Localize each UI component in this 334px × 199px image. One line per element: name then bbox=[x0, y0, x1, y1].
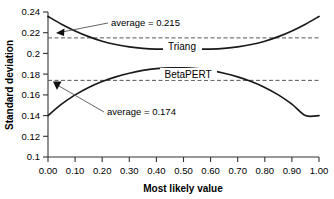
y-tick-label: 0.14 bbox=[22, 110, 41, 121]
chart-plot-area: 0.1 0.12 0.14 0.16 0.18 0.2 0.22 0.24 0.… bbox=[0, 0, 334, 199]
chart-figure: 0.1 0.12 0.14 0.16 0.18 0.2 0.22 0.24 0.… bbox=[0, 0, 334, 199]
y-tick-label: 0.24 bbox=[22, 6, 41, 17]
x-tick-label: 0.30 bbox=[120, 165, 139, 176]
betapert-series-label-group: BetaPERT bbox=[160, 68, 217, 80]
x-tick-label: 0.40 bbox=[147, 165, 166, 176]
x-tick-label: 0.80 bbox=[256, 165, 275, 176]
x-axis-tick-labels: 0.00 0.10 0.20 0.30 0.40 0.50 0.60 0.70 … bbox=[39, 165, 329, 176]
y-axis-title: Standard deviation bbox=[4, 40, 15, 130]
y-tick-label: 0.16 bbox=[22, 89, 41, 100]
x-tick-label: 0.10 bbox=[66, 165, 85, 176]
triang-annotation-arrowhead bbox=[56, 29, 65, 37]
x-axis-title: Most likely value bbox=[143, 183, 223, 194]
triang-average-annotation: average = 0.215 bbox=[111, 17, 180, 28]
y-tick-label: 0.22 bbox=[22, 27, 41, 38]
y-tick-label: 0.2 bbox=[27, 48, 40, 59]
x-tick-label: 0.20 bbox=[93, 165, 112, 176]
x-tick-label: 0.00 bbox=[39, 165, 58, 176]
y-tick-label: 0.1 bbox=[27, 151, 40, 162]
x-tick-label: 1.00 bbox=[310, 165, 329, 176]
x-tick-label: 0.70 bbox=[228, 165, 247, 176]
y-tick-label: 0.12 bbox=[22, 131, 41, 142]
y-axis-ticks bbox=[43, 12, 48, 157]
x-tick-label: 0.50 bbox=[174, 165, 193, 176]
betapert-annotation-arrowhead bbox=[53, 82, 62, 91]
triang-series-label-group: Triang bbox=[163, 40, 202, 52]
betapert-annotation-leader bbox=[59, 86, 104, 112]
triang-series-label: Triang bbox=[168, 41, 196, 52]
betapert-average-annotation: average = 0.174 bbox=[107, 106, 176, 117]
x-axis-ticks bbox=[48, 157, 319, 162]
x-tick-label: 0.60 bbox=[201, 165, 220, 176]
y-axis-tick-labels: 0.1 0.12 0.14 0.16 0.18 0.2 0.22 0.24 bbox=[22, 6, 41, 162]
x-tick-label: 0.90 bbox=[283, 165, 302, 176]
betapert-series-label: BetaPERT bbox=[164, 69, 211, 80]
y-tick-label: 0.18 bbox=[22, 69, 41, 80]
